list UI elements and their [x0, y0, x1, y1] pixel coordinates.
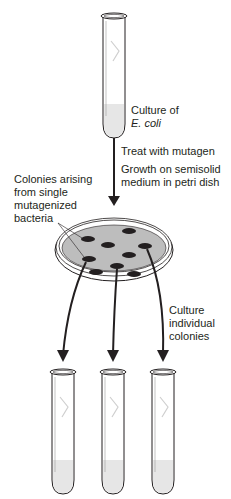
label-colonies-line1: Colonies arising [14, 173, 92, 186]
test-tube-colony-1 [50, 369, 76, 494]
label-treat-mutagen: Treat with mutagen [121, 145, 215, 158]
label-culture-individual-line1: Culture [169, 304, 204, 317]
test-tube-colony-2 [100, 369, 126, 494]
arrow-down-icon [108, 138, 120, 206]
label-growth-line2: medium in petri dish [121, 176, 219, 189]
label-colonies-line2: from single [14, 186, 68, 199]
label-culture-individual-line3: colonies [169, 330, 209, 343]
label-growth-line1: Growth on semisolid [121, 163, 221, 176]
test-tube-ecoli-culture [101, 13, 127, 138]
arrowheads [57, 350, 169, 362]
diagram-canvas [0, 0, 231, 499]
test-tube-colony-3 [150, 369, 176, 494]
label-ecoli: E. coli [131, 117, 161, 130]
label-colonies-line3: mutagenized [14, 199, 77, 212]
label-culture-of: Culture of [131, 104, 179, 117]
label-culture-individual-line2: individual [169, 317, 215, 330]
label-colonies-line4: bacteria [14, 212, 53, 225]
